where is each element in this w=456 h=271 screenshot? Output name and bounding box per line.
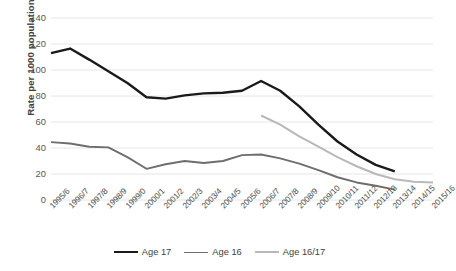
chart-legend: Age 17Age 16Age 16/17	[0, 247, 439, 257]
y-axis-tick-label: 120	[20, 39, 46, 49]
legend-label: Age 17	[142, 247, 171, 257]
gridlines	[51, 18, 433, 200]
y-axis-tick-label: 60	[20, 117, 46, 127]
legend-item[interactable]: Age 17	[114, 247, 171, 257]
legend-label: Age 16/17	[283, 247, 325, 257]
legend-item[interactable]: Age 16	[184, 247, 241, 257]
legend-line-swatch	[114, 251, 138, 253]
legend-line-swatch	[255, 251, 279, 253]
legend-item[interactable]: Age 16/17	[255, 247, 325, 257]
series-line-age-16	[51, 142, 395, 189]
y-axis-tick-label: 0	[20, 195, 46, 205]
series-line-age-17	[51, 49, 395, 172]
legend-line-swatch	[184, 252, 208, 253]
y-axis-tick-label: 140	[20, 13, 46, 23]
y-axis-tick-label: 80	[20, 91, 46, 101]
y-axis-tick-label: 20	[20, 169, 46, 179]
y-axis-tick-labels: 140120100806040200	[16, 0, 46, 210]
y-axis-tick-label: 40	[20, 143, 46, 153]
legend-label: Age 16	[212, 247, 241, 257]
y-axis-tick-label: 100	[20, 65, 46, 75]
